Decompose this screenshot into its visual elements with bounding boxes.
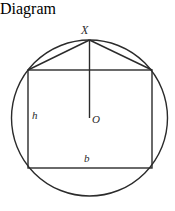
height-label: h <box>32 110 38 121</box>
chord-x-to-top-left-shape <box>28 40 90 70</box>
apex-label: X <box>81 24 88 36</box>
diagram-canvas <box>0 18 175 211</box>
geometry-diagram: X O h b <box>0 18 175 211</box>
chord-x-to-top-right-shape <box>90 40 153 70</box>
center-label: O <box>92 114 100 125</box>
base-label: b <box>84 153 90 164</box>
